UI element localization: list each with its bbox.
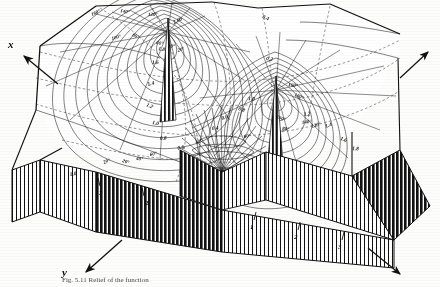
- x-axis-label: x: [7, 38, 14, 50]
- angle-label-2: 120°: [148, 12, 158, 17]
- contour-label-14: 1.2: [303, 110, 311, 117]
- right-axis-arrow: [400, 52, 428, 78]
- tick-label-left-3: 3: [98, 189, 103, 197]
- figure-caption: Fig. 5.11 Relief of the function: [62, 276, 392, 284]
- angle-label-16: 20°: [121, 158, 130, 165]
- angle-label-14: 60°: [244, 133, 252, 139]
- angle-label-19: 20°: [102, 158, 111, 166]
- contour-label-18: 1.0: [69, 170, 77, 177]
- tick-label-right-1: 1: [250, 223, 254, 231]
- wall-left-lit: [12, 160, 40, 222]
- angle-label-13: 80°: [282, 126, 289, 132]
- tick-label-left-2: 2: [144, 199, 149, 207]
- wall-left-front: [40, 160, 96, 232]
- contour-label-10: 0.4: [212, 124, 220, 131]
- relief-diagram-svg: 1 2 3 1 2 3 x y 2.001.81.61.41.21.00.80.…: [0, 0, 440, 287]
- tick-label-left-1: 1: [191, 209, 195, 217]
- relief-figure: 1 2 3 1 2 3 x y 2.001.81.61.41.21.00.80.…: [0, 0, 440, 287]
- contour-label-6: 0.8: [160, 135, 167, 141]
- angle-label-6: 40°: [167, 44, 175, 49]
- tick-label-right-3: 3: [337, 243, 342, 251]
- contour-label-2: 1.6: [152, 59, 159, 65]
- angle-label-17: 40°: [135, 156, 143, 162]
- y-axis-arrow: [86, 240, 122, 272]
- contour-label-13: 1.0: [248, 95, 256, 102]
- contour-label-9: 0.2: [266, 55, 274, 62]
- tick-label-right-2: 2: [293, 233, 298, 241]
- contour-label-17: 1.8: [352, 145, 359, 151]
- contour-label-5: 1.0: [152, 119, 160, 126]
